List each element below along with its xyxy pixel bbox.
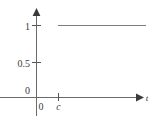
arrow-up-icon [33,8,41,16]
y-tick-label-0-5: 0.5 [18,58,31,69]
step-function-figure: 1 0.5 0 0 c t [0,0,154,122]
y-tick-label-1: 1 [25,21,30,32]
arrow-right-icon [136,94,144,102]
x-tick-label-c: c [56,101,61,112]
x-axis-label: t [146,93,149,103]
y-tick-label-0: 0 [25,85,30,96]
x-tick-label-0: 0 [39,101,44,112]
plot-canvas: 1 0.5 0 0 c t [0,0,154,122]
